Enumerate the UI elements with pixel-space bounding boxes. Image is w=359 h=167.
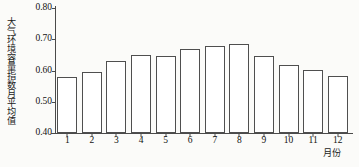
y-axis-tick-label: 0.70 xyxy=(16,35,52,45)
bar xyxy=(279,65,299,133)
y-axis-tick-mark xyxy=(52,39,56,40)
x-axis-tick-label: 2 xyxy=(90,135,95,146)
x-axis-tick-label: 10 xyxy=(284,135,294,146)
bar xyxy=(131,55,151,133)
y-axis-tick-label: 0.80 xyxy=(16,3,52,13)
bar xyxy=(106,61,126,133)
y-axis-tick-label: 0.50 xyxy=(16,97,52,107)
x-axis-tick-label: 7 xyxy=(212,135,217,146)
bar xyxy=(57,77,77,133)
x-axis-tick-label: 6 xyxy=(188,135,193,146)
x-axis-tick-label: 11 xyxy=(309,135,318,146)
chart-screenshot: 大气环境容量指数月平均值 0.400.500.600.700.80 123456… xyxy=(0,0,359,167)
plot-area xyxy=(55,8,350,133)
bar xyxy=(156,56,176,133)
y-axis-tick-label: 0.40 xyxy=(16,128,52,138)
y-axis-tick-mark xyxy=(52,133,56,134)
x-axis-tick-label: 8 xyxy=(237,135,242,146)
y-axis-tick-labels: 0.400.500.600.700.80 xyxy=(16,0,52,167)
y-axis-tick-label: 0.60 xyxy=(16,66,52,76)
bar xyxy=(229,44,249,133)
x-axis-tick-label: 5 xyxy=(163,135,168,146)
x-axis-tick-label: 4 xyxy=(139,135,144,146)
y-axis-tick-mark xyxy=(52,8,56,9)
x-axis-tick-labels: 123456789101112 xyxy=(55,135,355,149)
y-axis-tick-mark xyxy=(52,71,56,72)
x-axis-tick-label: 12 xyxy=(333,135,343,146)
bar xyxy=(254,56,274,133)
bar xyxy=(303,70,323,133)
y-axis-tick-mark xyxy=(52,102,56,103)
y-axis-line xyxy=(55,6,56,133)
bar xyxy=(205,46,225,134)
y-axis-title: 大气环境容量指数月平均值 xyxy=(1,4,16,138)
x-axis-line xyxy=(51,133,353,134)
bar xyxy=(328,76,348,133)
x-axis-title: 月份 xyxy=(323,148,341,158)
x-axis-tick-label: 3 xyxy=(114,135,119,146)
bar xyxy=(180,49,200,133)
x-axis-tick-label: 1 xyxy=(65,135,70,146)
x-axis-tick-label: 9 xyxy=(262,135,267,146)
bar xyxy=(82,72,102,133)
